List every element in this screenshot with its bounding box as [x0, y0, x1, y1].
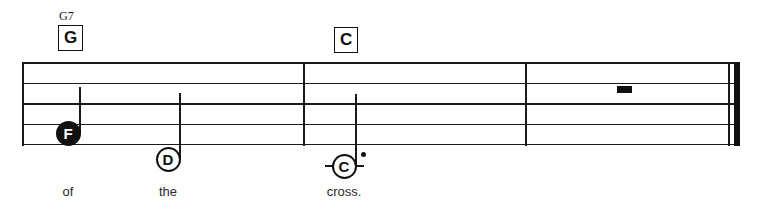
- notehead-f: F: [56, 121, 81, 146]
- half-rest[interactable]: [617, 86, 632, 93]
- augmentation-dot-c: [361, 152, 366, 157]
- lyric-the: the: [159, 184, 177, 199]
- note-stem-c: [355, 94, 357, 166]
- lyric-cross: cross.: [327, 184, 362, 199]
- chord-box-c: C: [334, 27, 358, 53]
- note-stem-f: [79, 87, 81, 133]
- notehead-c: C: [332, 154, 357, 179]
- staff-line-3: [22, 103, 740, 105]
- chord-superscript-g7: G7: [58, 10, 83, 22]
- note-stem-d: [179, 93, 181, 159]
- barline-measure-1: [303, 62, 305, 146]
- staff: [22, 62, 740, 145]
- barline-final-thick: [734, 62, 740, 146]
- notehead-d: D: [156, 147, 181, 172]
- barline-final-thin: [728, 62, 730, 146]
- barline-left: [22, 62, 24, 146]
- music-score-system: G7 G C F D C of the cross.: [0, 0, 780, 212]
- staff-line-4: [22, 124, 740, 126]
- chord-box-g: G: [58, 25, 83, 51]
- lyric-of: of: [63, 184, 74, 199]
- barline-measure-2: [525, 62, 527, 146]
- chord-symbol-c[interactable]: C: [334, 27, 358, 53]
- staff-line-5: [22, 144, 740, 146]
- chord-symbol-g[interactable]: G7 G: [58, 10, 83, 51]
- staff-line-2: [22, 83, 740, 85]
- staff-line-1: [22, 62, 740, 64]
